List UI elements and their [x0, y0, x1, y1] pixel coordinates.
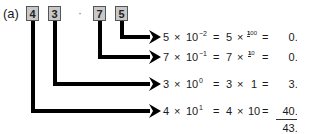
row-exponent: 1	[199, 101, 203, 115]
row-equals: =	[213, 77, 219, 91]
sum-rule	[276, 119, 297, 120]
row-times: ×	[174, 104, 180, 118]
row-base: 10	[186, 77, 198, 91]
row-digit: 7	[226, 50, 232, 64]
row-value: 3.00	[276, 77, 297, 91]
row-digit: 7	[163, 50, 169, 64]
row-value: 0.70	[276, 50, 297, 64]
sum-total: 43.75	[276, 121, 297, 134]
row-times: ×	[237, 104, 243, 118]
wire-tens	[33, 21, 150, 111]
row-times: ×	[174, 50, 180, 64]
arrowhead-icon	[149, 104, 161, 118]
row-digit: 5	[226, 30, 232, 44]
row-times: ×	[174, 77, 180, 91]
row-equals: =	[262, 77, 268, 91]
row-exponent: −1	[199, 47, 207, 61]
row-times: ×	[174, 30, 180, 44]
row-base: 10	[186, 50, 198, 64]
row-equals: =	[262, 50, 268, 64]
row-equals: =	[213, 50, 219, 64]
arrowhead-icon	[149, 50, 161, 64]
row-equals: =	[213, 30, 219, 44]
row-times: ×	[237, 30, 243, 44]
row-base: 10	[186, 30, 198, 44]
row-exponent: 0	[199, 74, 203, 88]
row-equals: =	[213, 104, 219, 118]
row-value: 0.05	[276, 30, 297, 44]
row-base: 10	[186, 104, 198, 118]
row-digit: 4	[163, 104, 169, 118]
arrowhead-icon	[149, 30, 161, 44]
wire-ones	[55, 21, 150, 84]
row-digit: 4	[226, 104, 232, 118]
row-equals: =	[262, 104, 268, 118]
row-digit: 3	[163, 77, 169, 91]
wire-hundredths	[122, 21, 150, 37]
row-digit: 5	[163, 30, 169, 44]
row-exponent: −2	[199, 27, 207, 41]
row-times: ×	[237, 50, 243, 64]
row-digit: 3	[226, 77, 232, 91]
row-factor: 1	[251, 77, 257, 91]
arrowhead-icon	[149, 77, 161, 91]
row-times: ×	[237, 77, 243, 91]
row-equals: =	[262, 30, 268, 44]
row-factor: 10	[248, 104, 260, 118]
fraction-denominator: 10	[248, 50, 255, 56]
row-value: 40.00	[276, 104, 297, 118]
fraction-denominator: 100	[247, 30, 257, 36]
